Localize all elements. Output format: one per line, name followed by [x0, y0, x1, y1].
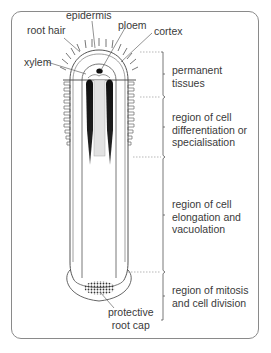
xylem-left: [86, 80, 93, 166]
region-mitosis: region of mitosis and cell division: [172, 284, 262, 309]
region-cell-differentiation: region of cell differentiation or specia…: [172, 111, 262, 149]
xylem-leader: [47, 62, 86, 74]
label-root-hair: root hair: [27, 24, 66, 37]
label-root-cap: protective root cap: [108, 306, 154, 331]
label-cortex: cortex: [154, 25, 183, 38]
region-cell-elongation: region of cell elongation and vacuolatio…: [172, 198, 262, 236]
root-hairs-right: [128, 82, 134, 145]
xylem-right: [106, 80, 113, 166]
ploem-leader: [101, 28, 125, 70]
phloem-tissue: [94, 80, 105, 156]
region-braces: [161, 52, 165, 320]
label-xylem: xylem: [24, 56, 51, 69]
region-permanent-tissues: permanent tissues: [172, 64, 262, 89]
cortex-leader: [121, 33, 152, 62]
meristem: [85, 281, 115, 295]
label-ploem: ploem: [118, 19, 147, 32]
root-hairs-left: [64, 82, 70, 145]
label-epidermis: epidermis: [66, 9, 112, 22]
